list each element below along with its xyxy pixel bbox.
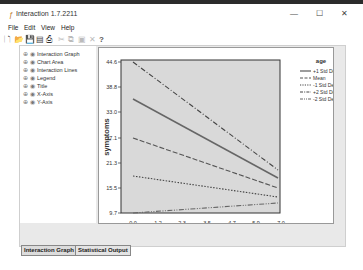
expand-icon[interactable]: ⊕ [23, 99, 28, 105]
svg-text:21.3: 21.3 [106, 160, 117, 166]
chart-icon[interactable]: ▤ [36, 35, 44, 44]
help-icon[interactable]: ? [99, 35, 104, 44]
expand-icon[interactable]: ⊕ [23, 75, 28, 81]
svg-text:+2 Std Dev: +2 Std Dev [313, 89, 333, 95]
expand-icon[interactable]: ⊕ [23, 59, 28, 65]
svg-text:-1 Std Dev: -1 Std Dev [313, 82, 333, 88]
node-icon: ◉ [30, 83, 35, 89]
svg-text:5.9: 5.9 [252, 220, 260, 223]
tab-statistical-output[interactable]: Statistical Output [75, 245, 131, 256]
properties-tree: ⊕◉Interaction Graph ⊕◉Chart Area ⊕◉Inter… [20, 46, 96, 223]
paste-icon[interactable]: ▣ [78, 35, 86, 44]
expand-icon[interactable]: ⊕ [23, 67, 28, 73]
interaction-chart: 44.6 38.8 33.0 27.1 21.3 15.5 9.7 0.0 1.… [99, 48, 333, 223]
svg-text:age: age [316, 58, 327, 64]
node-icon: ◉ [30, 59, 35, 65]
svg-text:+1 Std Dev: +1 Std Dev [313, 68, 333, 74]
expand-icon[interactable]: ⊕ [23, 51, 28, 57]
svg-text:15.5: 15.5 [106, 185, 117, 191]
node-icon: ◉ [30, 51, 35, 57]
window-title: Interaction 1.7.2211 [16, 10, 77, 17]
x-axis-ticks: 0.0 1.2 2.3 3.5 4.7 5.9 7.0 [129, 220, 285, 223]
maximize-button[interactable]: ☐ [316, 9, 323, 18]
node-icon: ◉ [30, 91, 35, 97]
svg-text:0.0: 0.0 [129, 220, 137, 223]
cut-icon[interactable]: ✂ [58, 35, 65, 44]
svg-text:Mean: Mean [313, 75, 326, 81]
close-button[interactable]: ✕ [341, 9, 348, 18]
open-folder-icon[interactable]: 📂 [14, 35, 24, 44]
menu-edit[interactable]: Edit [24, 24, 35, 31]
expand-icon[interactable]: ⊕ [23, 91, 28, 97]
svg-text:-2 Std Dev: -2 Std Dev [313, 96, 333, 102]
menu-view[interactable]: View [41, 24, 55, 31]
svg-text:9.7: 9.7 [109, 210, 117, 216]
save-icon[interactable]: 💾 [25, 35, 35, 44]
print-icon[interactable]: ⎙ [46, 35, 52, 44]
minimize-button[interactable]: — [290, 9, 298, 18]
svg-text:2.3: 2.3 [178, 220, 186, 223]
expand-icon[interactable]: ⊕ [23, 83, 28, 89]
chart-panel: 44.6 38.8 33.0 27.1 21.3 15.5 9.7 0.0 1.… [98, 47, 334, 224]
new-file-icon[interactable]: 🗋 [4, 35, 10, 44]
toolbar: 🗋 📂 💾 ▤ ⎙ ✂ ⧉ ▣ ✕ ? [0, 34, 363, 45]
svg-text:4.7: 4.7 [228, 220, 236, 223]
node-icon: ◉ [30, 99, 35, 105]
svg-text:33.0: 33.0 [106, 109, 117, 115]
y-axis-label: symptoms [102, 118, 111, 156]
copy-icon[interactable]: ⧉ [68, 35, 74, 44]
svg-text:38.8: 38.8 [106, 84, 117, 90]
menu-help[interactable]: Help [61, 24, 74, 31]
legend: age +1 Std Dev Mean -1 Std Dev +2 Std De… [300, 58, 333, 102]
svg-text:1.2: 1.2 [154, 220, 162, 223]
menu-file[interactable]: File [8, 24, 18, 31]
title-bar: ƒ Interaction 1.7.2211 — ☐ ✕ [0, 4, 363, 23]
delete-icon[interactable]: ✕ [89, 35, 96, 44]
svg-text:7.0: 7.0 [277, 220, 285, 223]
app-icon: ƒ [9, 10, 13, 19]
node-icon: ◉ [30, 75, 35, 81]
svg-text:44.6: 44.6 [106, 59, 117, 65]
menu-bar: File Edit View Help [0, 23, 363, 33]
svg-text:3.5: 3.5 [203, 220, 211, 223]
node-icon: ◉ [30, 67, 35, 73]
tab-interaction-graph[interactable]: Interaction Graph [21, 245, 77, 256]
